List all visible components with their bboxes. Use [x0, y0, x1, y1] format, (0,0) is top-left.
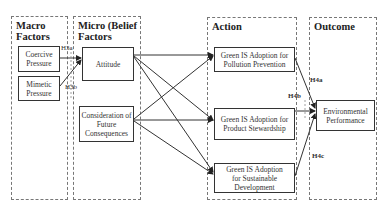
group-title-macro: Macro Factors	[16, 20, 61, 42]
node-environmental-performance: Environmental Performance	[316, 100, 375, 131]
label-h3a: H3a	[61, 44, 73, 52]
label-h3b: H3b	[65, 83, 77, 91]
node-consideration-future-consequences: Consideration of Future Consequences	[79, 106, 134, 142]
node-green-is-sustainable-development: Green IS Adoption for Sustainable Develo…	[214, 163, 295, 193]
node-coercive-pressure: Coercive Pressure	[18, 46, 60, 72]
node-attitude: Attitude	[82, 47, 134, 81]
group-macro-factors: Macro Factors	[11, 16, 68, 200]
node-green-is-product-stewardship: Green IS Adoption for Product Stewardshi…	[214, 108, 295, 140]
node-green-is-pollution-prevention: Green IS Adoption for Pollution Preventi…	[214, 47, 295, 72]
edge-attitude-sustainable	[134, 57, 213, 172]
group-title-outcome: Outcome	[314, 21, 355, 32]
group-title-micro: Micro (Belief Factors	[78, 20, 142, 42]
edge-consideration-pollution	[134, 56, 213, 119]
edge-attitude-stewardship	[134, 56, 213, 120]
label-h4c: H4c	[312, 152, 324, 160]
label-h4a: H4a	[310, 76, 322, 84]
group-title-action: Action	[212, 21, 242, 32]
label-h4b: H4b	[288, 92, 301, 100]
edge-consideration-sustainable	[134, 121, 213, 174]
node-mimetic-pressure: Mimetic Pressure	[18, 76, 60, 101]
